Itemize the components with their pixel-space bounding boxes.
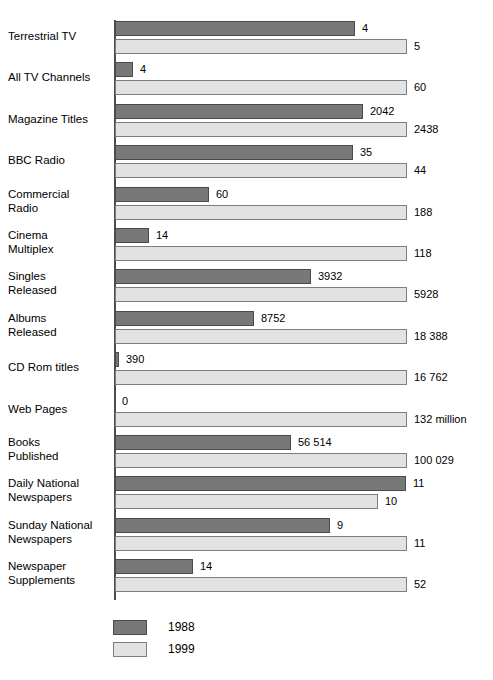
bar-1999 xyxy=(115,494,378,509)
bar-group: Commercial Radio60188 xyxy=(0,187,493,220)
bar-1999 xyxy=(115,122,407,137)
bar-value-label: 4 xyxy=(140,62,146,77)
category-label: BBC Radio xyxy=(8,153,110,167)
category-label: Daily National Newspapers xyxy=(8,476,110,504)
bar-value-label: 11 xyxy=(414,536,425,551)
bar-group: Sunday National Newspapers911 xyxy=(0,518,493,551)
bar-1988 xyxy=(115,62,133,77)
bar-value-label: 10 xyxy=(385,494,397,509)
bar-value-label: 2042 xyxy=(370,104,394,119)
bar-group: BBC Radio3544 xyxy=(0,145,493,178)
bar-1999 xyxy=(115,453,407,468)
category-label: Web Pages xyxy=(8,402,110,416)
bar-value-label: 4 xyxy=(362,21,368,36)
category-label: Newspaper Supplements xyxy=(8,559,110,587)
bar-chart: Terrestrial TV45All TV Channels460Magazi… xyxy=(0,0,493,680)
bar-value-label: 390 xyxy=(126,352,144,367)
bar-value-label: 60 xyxy=(216,187,228,202)
bar-value-label: 35 xyxy=(360,145,372,160)
bar-1988 xyxy=(115,228,149,243)
bar-value-label: 2438 xyxy=(414,122,438,137)
legend-swatch-1988-icon xyxy=(113,620,147,635)
category-label: Cinema Multiplex xyxy=(8,228,110,256)
bar-1999 xyxy=(115,39,407,54)
category-label: Singles Released xyxy=(8,269,110,297)
bar-1988 xyxy=(115,21,355,36)
bar-1988 xyxy=(115,435,291,450)
bar-group: Terrestrial TV45 xyxy=(0,21,493,54)
bar-group: Daily National Newspapers1110 xyxy=(0,476,493,509)
bar-group: Magazine Titles20422438 xyxy=(0,104,493,137)
bar-value-label: 118 xyxy=(414,246,432,261)
category-label: Terrestrial TV xyxy=(8,29,110,43)
bar-value-label: 5928 xyxy=(414,287,438,302)
bar-group: Singles Released39325928 xyxy=(0,269,493,302)
bar-group: CD Rom titles39016 762 xyxy=(0,352,493,385)
bar-1999 xyxy=(115,287,407,302)
bar-1988 xyxy=(115,476,406,491)
bar-1988 xyxy=(115,104,363,119)
bar-group: Newspaper Supplements1452 xyxy=(0,559,493,592)
bar-value-label: 16 762 xyxy=(414,370,448,385)
bar-1999 xyxy=(115,412,407,427)
bar-1988 xyxy=(115,352,119,367)
category-label: CD Rom titles xyxy=(8,360,110,374)
bar-1999 xyxy=(115,80,407,95)
category-label: Sunday National Newspapers xyxy=(8,518,110,546)
bar-group: Albums Released875218 388 xyxy=(0,311,493,344)
bar-value-label: 188 xyxy=(414,205,432,220)
bar-group: All TV Channels460 xyxy=(0,62,493,95)
legend-swatch-1999-icon xyxy=(113,642,147,657)
category-label: Books Published xyxy=(8,435,110,463)
legend-label-1988: 1988 xyxy=(168,618,195,637)
bar-value-label: 44 xyxy=(414,163,426,178)
bar-1999 xyxy=(115,163,407,178)
legend-label-1999: 1999 xyxy=(168,640,195,659)
plot-area: Terrestrial TV45All TV Channels460Magazi… xyxy=(0,0,493,600)
bar-value-label: 52 xyxy=(414,577,426,592)
bar-1988 xyxy=(115,145,353,160)
bar-group: Cinema Multiplex14118 xyxy=(0,228,493,261)
bar-value-label: 5 xyxy=(414,39,420,54)
bar-value-label: 9 xyxy=(337,518,343,533)
category-label: Albums Released xyxy=(8,311,110,339)
bar-1999 xyxy=(115,370,407,385)
bar-value-label: 60 xyxy=(414,80,426,95)
bar-1999 xyxy=(115,577,407,592)
bar-value-label: 14 xyxy=(200,559,212,574)
bar-1988 xyxy=(115,187,209,202)
bar-value-label: 8752 xyxy=(261,311,285,326)
bar-value-label: 18 388 xyxy=(414,329,448,344)
bar-value-label: 3932 xyxy=(318,269,342,284)
category-label: All TV Channels xyxy=(8,70,110,84)
bar-1988 xyxy=(115,518,330,533)
bar-1988 xyxy=(115,559,193,574)
category-label: Commercial Radio xyxy=(8,187,110,215)
bar-value-label: 132 million xyxy=(414,412,467,427)
bar-1999 xyxy=(115,536,407,551)
bar-1999 xyxy=(115,205,407,220)
bar-1988 xyxy=(115,311,254,326)
bar-group: Books Published56 514100 029 xyxy=(0,435,493,468)
bar-value-label: 100 029 xyxy=(414,453,454,468)
bar-1999 xyxy=(115,246,407,261)
bar-group: Web Pages0132 million xyxy=(0,394,493,427)
bar-1999 xyxy=(115,329,407,344)
bar-value-label: 56 514 xyxy=(298,435,332,450)
bar-value-label: 14 xyxy=(156,228,168,243)
bar-value-label: 11 xyxy=(413,476,424,491)
bar-1988 xyxy=(115,269,311,284)
category-label: Magazine Titles xyxy=(8,112,110,126)
bar-value-label: 0 xyxy=(122,394,128,409)
